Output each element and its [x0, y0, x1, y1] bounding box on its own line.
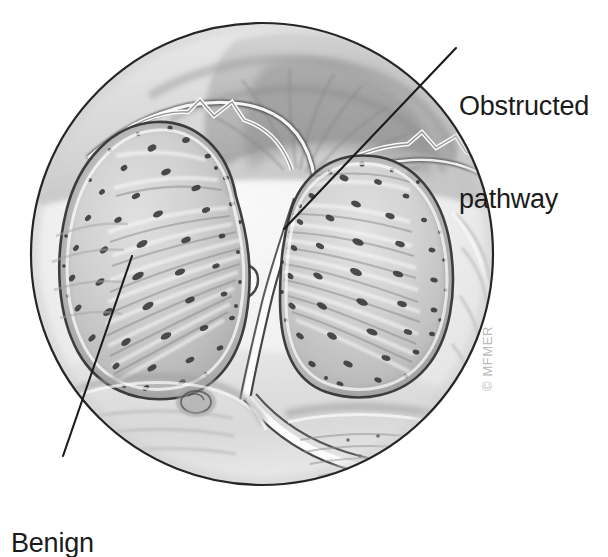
callout-line-obstructed-2: pathway	[459, 184, 589, 215]
callout-label-benign-growth: Benign growth	[11, 466, 94, 557]
callout-label-obstructed-pathway: Obstructed pathway	[459, 29, 589, 277]
copyright-notice: © MFMER	[479, 295, 497, 391]
callout-line-obstructed-1: Obstructed	[459, 91, 589, 122]
callout-line-benign-1: Benign	[11, 528, 94, 557]
prostate-illustration-figure: Obstructed pathway Benign growth © MFMER	[0, 0, 608, 557]
